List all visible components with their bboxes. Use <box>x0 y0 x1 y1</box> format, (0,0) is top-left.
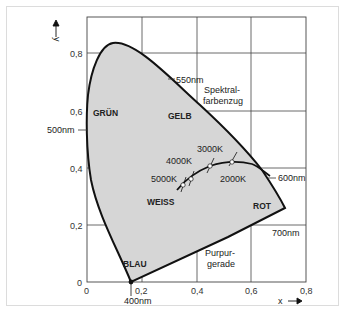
x-tick-0.4: 0,4 <box>191 286 204 296</box>
y-tick-0: 0 <box>77 278 82 288</box>
label-gelb: GELB <box>168 111 192 121</box>
label-600nm: 600nm <box>278 173 306 183</box>
x-axis-label: x <box>278 296 283 306</box>
label-5000k: 5000K <box>151 174 177 184</box>
label-spektral-1: Spektral- <box>204 85 240 95</box>
label-purpur-1: Purpur- <box>205 248 235 258</box>
label-550nm: 550nm <box>176 75 204 85</box>
label-purpur-2: gerade <box>207 259 235 269</box>
label-4000k: 4000K <box>166 156 192 166</box>
label-weiss: WEISS <box>147 197 175 207</box>
x-tick-0.6: 0,6 <box>245 286 258 296</box>
x-tick-0: 0 <box>84 286 89 296</box>
label-gruen: GRÜN <box>93 108 118 118</box>
point-400nm <box>129 280 134 285</box>
y-tick-0.2: 0,2 <box>70 221 83 231</box>
chromaticity-diagram: y x 0,8 0,6 0,4 0,2 0 0 0,2 0,4 0,6 0,8 … <box>0 0 345 313</box>
label-2000k: 2000K <box>220 174 246 184</box>
y-axis-label: y <box>52 37 62 42</box>
x-tick-0.8: 0,8 <box>300 286 313 296</box>
label-3000k: 3000K <box>197 144 223 154</box>
label-rot: ROT <box>253 201 272 211</box>
y-tick-0.4: 0,4 <box>70 164 83 174</box>
label-400nm: 400nm <box>124 296 152 306</box>
y-tick-0.8: 0,8 <box>70 49 83 59</box>
y-tick-0.6: 0,6 <box>70 107 83 117</box>
label-700nm: 700nm <box>272 228 300 238</box>
label-blau: BLAU <box>123 259 147 269</box>
label-500nm: 500nm <box>47 125 75 135</box>
label-spektral-2: farbenzug <box>203 96 243 106</box>
x-tick-0.2: 0,2 <box>135 286 148 296</box>
